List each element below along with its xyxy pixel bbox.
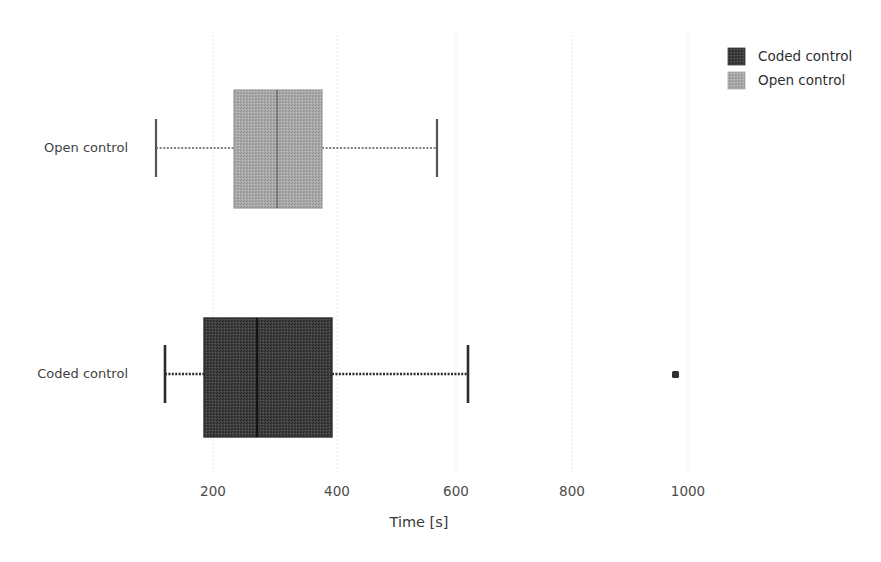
legend-label-coded-control: Coded control	[758, 48, 852, 64]
box-body-coded	[204, 318, 332, 437]
xtick-label-200: 200	[200, 483, 226, 499]
legend-label-open-control: Open control	[758, 72, 845, 88]
box-body-open	[234, 90, 322, 208]
chart-svg: Open control Coded control 200 400 600 8…	[0, 0, 881, 562]
legend-swatch-open-control	[728, 72, 745, 89]
xtick-label-1000: 1000	[671, 483, 705, 499]
category-label-open-control: Open control	[44, 140, 128, 155]
category-label-coded-control: Coded control	[37, 366, 128, 381]
legend-swatch-coded-control	[728, 48, 745, 65]
xtick-label-600: 600	[443, 483, 469, 499]
chart-background	[0, 0, 881, 562]
outlier-point-coded[interactable]	[672, 371, 679, 378]
xtick-label-400: 400	[324, 483, 350, 499]
boxplot-chart: Open control Coded control 200 400 600 8…	[0, 0, 881, 562]
x-axis-title: Time [s]	[389, 514, 449, 530]
xtick-label-800: 800	[559, 483, 585, 499]
